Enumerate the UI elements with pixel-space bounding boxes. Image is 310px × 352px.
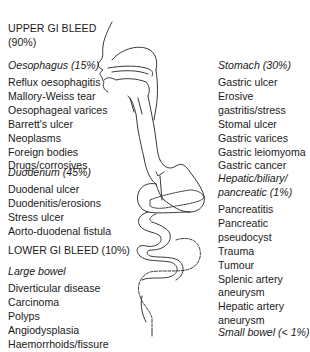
list-item: Hepatic artery	[218, 300, 284, 314]
list-item: aneurysm	[218, 286, 284, 300]
large-bowel	[138, 238, 200, 330]
list-item: Erosive	[218, 90, 306, 104]
list-item: Trauma	[218, 245, 284, 259]
pancreas	[150, 190, 204, 208]
upper-gi-title: UPPER GI BLEED	[8, 21, 96, 35]
nasal-cavity	[108, 47, 157, 76]
list-item: Oesophageal varices	[8, 104, 108, 118]
list-item: Angiodysplasia	[8, 324, 109, 338]
large-bowel-causes-list: Diverticular disease Carcinoma Polyps An…	[8, 282, 109, 352]
list-item: Stress ulcer	[8, 211, 111, 225]
list-item: Mallory-Weiss tear	[8, 90, 108, 104]
list-item: Barrett's ulcer	[8, 118, 108, 132]
small-bowel-heading: Small bowel (< 1%)	[218, 325, 310, 339]
stomach-inner	[144, 158, 156, 184]
trachea	[130, 98, 142, 114]
list-item: Pancreatic	[218, 217, 284, 231]
lower-gi-title: LOWER GI BLEED (10%)	[8, 243, 130, 257]
hepatic-causes-list: Pancreatitis Pancreatic pseudocyst Traum…	[218, 203, 284, 328]
list-item: Diverticular disease	[8, 282, 109, 296]
list-item: Gastric ulcer	[218, 76, 306, 90]
upper-gi-percent: (90%)	[8, 35, 36, 49]
oesophagus-right-wall	[148, 96, 160, 160]
list-item: Stomal ulcer	[218, 118, 306, 132]
list-item: Duodenal ulcer	[8, 183, 111, 197]
oesophagus-causes-list: Reflux oesophagitis Mallory-Weiss tear O…	[8, 76, 108, 173]
list-item: Neoplasms	[8, 132, 108, 146]
stomach-heading: Stomach (30%)	[218, 58, 291, 72]
pharynx-back-wall	[154, 70, 158, 120]
small-bowel	[137, 212, 177, 280]
list-item: Aorto-duodenal fistula	[8, 225, 111, 239]
list-item: Duodenitis/erosions	[8, 197, 111, 211]
list-item: Reflux oesophagitis	[8, 76, 108, 90]
list-item: Gastric leiomyoma	[218, 146, 306, 160]
list-item: Haemorrhoids/fissure	[8, 338, 109, 352]
oesophagus-left-wall	[128, 96, 144, 158]
large-bowel-heading: Large bowel	[8, 264, 66, 278]
small-bowel-inner	[147, 214, 183, 280]
list-item: pseudocyst	[218, 231, 284, 245]
hepatic-heading-line2: pancreatic (1%)	[218, 185, 292, 199]
list-item: Tumour	[218, 259, 284, 273]
oesophagus-heading: Oesophagus (15%)	[8, 58, 99, 72]
stomach-outline	[156, 160, 204, 212]
tongue	[104, 78, 149, 96]
list-item: Polyps	[8, 310, 109, 324]
list-item: gastritis/stress	[218, 104, 306, 118]
list-item: Splenic artery	[218, 273, 284, 287]
list-item: Gastric varices	[218, 132, 306, 146]
stomach-causes-list: Gastric ulcer Erosive gastritis/stress S…	[218, 76, 306, 173]
list-item: Carcinoma	[8, 296, 109, 310]
list-item: Foreign bodies	[8, 146, 108, 160]
duodenum-heading: Duodenum (45%)	[8, 165, 91, 179]
hepatic-heading-line1: Hepatic/biliary/	[218, 171, 287, 185]
list-item: Pancreatitis	[218, 203, 284, 217]
duodenum-causes-list: Duodenal ulcer Duodenitis/erosions Stres…	[8, 183, 111, 239]
